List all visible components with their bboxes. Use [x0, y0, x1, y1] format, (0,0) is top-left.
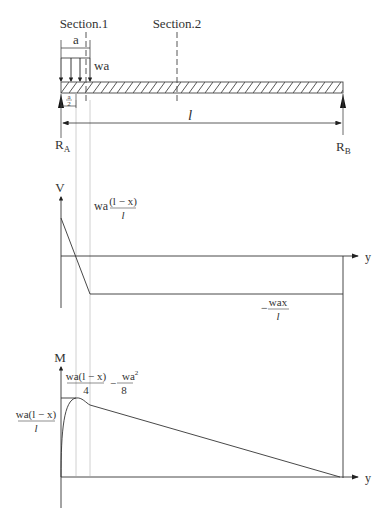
- reaction-b-label: RB: [336, 139, 351, 156]
- moment-curve: [61, 398, 340, 477]
- moment-left-num: wa(l − x): [16, 408, 57, 421]
- half-a-den: 2: [67, 100, 71, 108]
- shear-top-label-den: l: [121, 209, 124, 221]
- moment-peak-op: −: [110, 377, 116, 389]
- moment-peak-num1: wa(l − x): [66, 370, 107, 383]
- reaction-a-label: RA: [55, 137, 71, 154]
- load-width-label: a: [73, 32, 79, 47]
- moment-peak-den1: 4: [83, 384, 89, 396]
- beam-diagram-canvas: Section.1 Section.2 a wa a 2 l RA RB: [0, 0, 390, 530]
- section-1-label: Section.1: [60, 16, 109, 31]
- load-label: wa: [94, 58, 109, 73]
- moment-peak-den2: 8: [121, 384, 127, 396]
- moment-left-den: l: [34, 422, 37, 434]
- moment-peak-num2: wa2: [122, 369, 139, 382]
- shear-bottom-label-den: l: [276, 310, 279, 322]
- shear-bottom-label-num: wax: [269, 296, 288, 308]
- support-a-arrow: [58, 94, 64, 138]
- shear-diagram: [61, 197, 358, 478]
- section-2-label: Section.2: [153, 16, 202, 31]
- beam: [61, 82, 343, 93]
- shear-top-label-num: (l − x): [109, 195, 137, 208]
- support-b-arrow: [340, 94, 346, 135]
- shear-top-label-prefix: wa: [94, 199, 109, 213]
- moment-diagram: [61, 367, 358, 508]
- shear-x-axis-label: y: [365, 250, 371, 264]
- moment-x-axis-label: y: [365, 471, 371, 485]
- moment-axis-label: M: [54, 350, 66, 365]
- span-label: l: [188, 107, 192, 123]
- shear-bottom-label-prefix: −: [261, 301, 268, 315]
- shear-axis-label: V: [55, 180, 65, 195]
